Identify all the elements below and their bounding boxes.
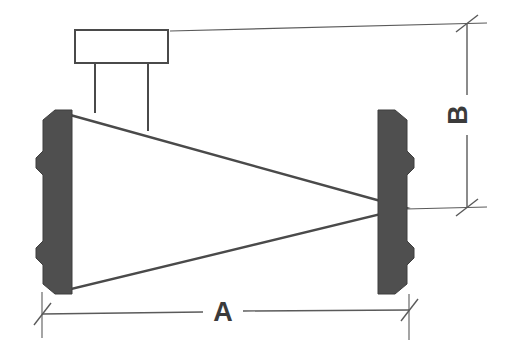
rectangular-head-block [75, 30, 168, 63]
right-notched-jaw [378, 110, 414, 294]
diagram-canvas: A B [0, 0, 519, 360]
dimension-b-label: B [443, 105, 473, 125]
dimension-a-label: A [213, 297, 233, 327]
dimension-a: A [34, 297, 418, 327]
dimension-a-line-right [243, 310, 409, 311]
tapered-wedge-body [63, 113, 406, 291]
left-notched-jaw [36, 110, 72, 294]
dimension-a-line-left [42, 312, 203, 314]
technical-drawing: A B [0, 0, 519, 360]
witness-line-top [170, 23, 487, 31]
dimension-b: B [443, 15, 478, 216]
witness-line-apex [406, 207, 487, 209]
